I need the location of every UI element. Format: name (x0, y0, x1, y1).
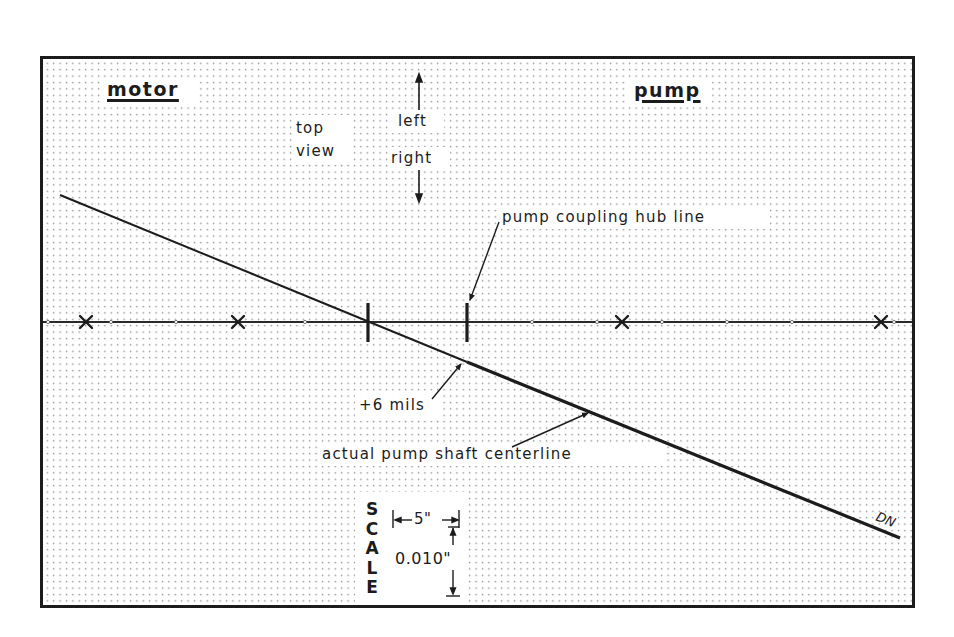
scale-vertical-value: 0.010" (395, 551, 451, 567)
view-label-top: top (296, 121, 324, 136)
scale-letter: S (364, 500, 380, 520)
scale-letter: A (364, 539, 380, 559)
view-label-view: view (296, 144, 335, 159)
scale-letter: C (364, 520, 380, 540)
scale-label: S C A L E (364, 500, 380, 598)
shaft-centerline-annotation: actual pump shaft centerline (322, 447, 572, 462)
offset-annotation: +6 mils (359, 398, 425, 413)
direction-right-label: right (391, 151, 432, 166)
drawing-frame (41, 57, 914, 607)
scale-horizontal-value: 5" (414, 512, 431, 527)
motor-title: motor (107, 80, 179, 99)
direction-left-label: left (398, 114, 427, 129)
pump-title: pump (634, 81, 701, 100)
hub-line-annotation: pump coupling hub line (502, 210, 705, 225)
scale-letter: L (364, 559, 380, 579)
scale-letter: E (364, 578, 380, 598)
